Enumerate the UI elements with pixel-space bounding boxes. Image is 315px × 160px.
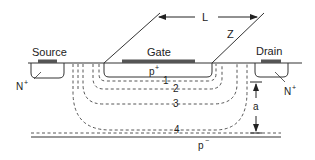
contour-3-label: 3 xyxy=(173,98,179,109)
depletion-contour-4 xyxy=(73,64,247,130)
source-n-plus-well xyxy=(31,63,64,78)
drain-contact xyxy=(261,60,281,64)
depth-label: a xyxy=(253,101,259,112)
n-plus-left-label-sup: + xyxy=(24,79,28,86)
p-plus-label-sup: + xyxy=(155,64,159,71)
contour-4-label: 4 xyxy=(174,124,180,135)
n-plus-right-label: N xyxy=(284,86,291,97)
source-contact xyxy=(38,60,57,64)
substrate-label-sup: − xyxy=(205,137,209,144)
drain-n-plus-well xyxy=(255,63,288,77)
width-label: Z xyxy=(227,28,234,40)
length-label: L xyxy=(202,11,208,23)
contour-1-label: 1 xyxy=(163,75,169,86)
gate-label: Gate xyxy=(147,46,171,58)
n-plus-left-label: N xyxy=(16,81,23,92)
drain-label: Drain xyxy=(256,45,282,57)
substrate-label: p xyxy=(198,140,204,151)
n-plus-right-label-sup: + xyxy=(292,84,296,91)
jfet-diagram: Source Gate Drain L Z p + N + N + a 1 2 … xyxy=(0,0,315,160)
source-label: Source xyxy=(32,46,67,58)
contour-2-label: 2 xyxy=(173,83,179,94)
gate-contact xyxy=(122,60,195,64)
depletion-contour-3 xyxy=(83,64,237,104)
